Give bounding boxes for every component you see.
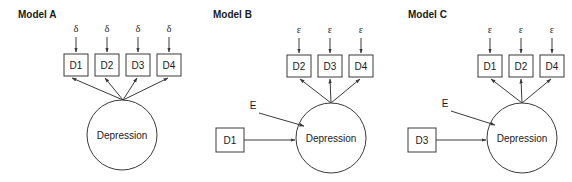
model-a-latent-label: Depression xyxy=(97,130,148,141)
path-diagram-figure: Model A δ δ δ δ D1 D2 D3 D4 Depression M… xyxy=(0,0,572,182)
model-b-error-label-d2: ε xyxy=(297,24,302,35)
model-c-title: Model C xyxy=(408,9,447,20)
model-c-error-label-d4: ε xyxy=(550,24,555,35)
model-a-indicator-label-d2: D2 xyxy=(101,60,114,71)
model-c-predictor-label-d3: D3 xyxy=(416,135,429,146)
model-b-predictor-label-d1: D1 xyxy=(224,135,237,146)
model-b-loading-arrow-d3 xyxy=(330,79,331,103)
model-c-loading-arrow-d2 xyxy=(521,79,522,103)
model-c-indicator-label-d2: D2 xyxy=(515,61,528,72)
model-b-loading-arrow-d4 xyxy=(331,79,360,103)
model-c-group: Model C ε ε ε D1 D2 D4 Depression E D3 xyxy=(408,9,564,173)
model-c-disturbance-arrow xyxy=(451,111,495,125)
model-a-indicator-label-d4: D4 xyxy=(163,60,176,71)
model-b-error-label-d3: ε xyxy=(328,24,333,35)
model-c-error-label-d1: ε xyxy=(488,24,493,35)
model-c-error-label-d2: ε xyxy=(519,24,524,35)
model-b-indicator-label-d2: D2 xyxy=(293,61,306,72)
model-a-error-label-d3: δ xyxy=(136,23,141,34)
model-a-error-label-d2: δ xyxy=(105,23,110,34)
model-b-indicator-label-d4: D4 xyxy=(355,61,368,72)
model-a-error-label-d1: δ xyxy=(74,23,79,34)
model-b-loading-arrow-d2 xyxy=(300,79,331,103)
model-b-error-label-d4: ε xyxy=(359,24,364,35)
model-c-disturbance-label: E xyxy=(442,98,449,109)
model-c-latent-label: Depression xyxy=(497,133,548,144)
model-a-error-label-d4: δ xyxy=(167,23,172,34)
model-a-group: Model A δ δ δ δ D1 D2 D3 D4 Depression xyxy=(18,9,181,170)
model-b-group: Model B ε ε ε D2 D3 D4 Depression E D1 xyxy=(213,9,373,173)
model-b-latent-label: Depression xyxy=(306,133,357,144)
model-c-loading-arrow-d4 xyxy=(522,79,551,103)
model-a-loading-arrow-d1 xyxy=(72,78,123,100)
model-b-disturbance-arrow xyxy=(259,113,304,126)
model-a-indicator-label-d3: D3 xyxy=(132,60,145,71)
model-c-indicator-label-d1: D1 xyxy=(484,61,497,72)
model-a-loading-arrow-d2 xyxy=(105,78,123,100)
model-a-indicator-label-d1: D1 xyxy=(70,60,83,71)
model-c-indicator-label-d4: D4 xyxy=(546,61,559,72)
model-b-disturbance-label: E xyxy=(250,100,257,111)
model-c-loading-arrow-d1 xyxy=(491,79,522,103)
model-a-title: Model A xyxy=(18,9,57,20)
model-b-indicator-label-d3: D3 xyxy=(324,61,337,72)
model-b-title: Model B xyxy=(213,9,252,20)
